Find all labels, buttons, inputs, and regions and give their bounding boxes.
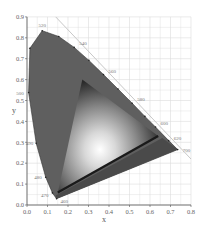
x-tick-label: 0.5	[125, 208, 133, 215]
wavelength-label-520: 520	[38, 23, 46, 28]
wavelength-label-540: 540	[79, 41, 87, 46]
y-tick-label: 0.5	[16, 97, 24, 104]
wavelength-label-700: 700	[183, 148, 191, 153]
wavelength-label-560: 560	[108, 69, 116, 74]
wavelength-label-600: 600	[161, 121, 169, 126]
cie-chromaticity-chart: 0.00.10.20.30.40.50.60.70.80.00.10.20.30…	[0, 0, 206, 229]
wavelength-label-620: 620	[174, 136, 182, 141]
y-tick-label: 0.4	[16, 118, 25, 125]
y-tick-label: 0.6	[16, 76, 25, 83]
x-tick-label: 0.1	[43, 208, 51, 215]
y-tick-label: 0.8	[16, 34, 24, 41]
x-tick-label: 0.0	[23, 208, 31, 215]
plot-area	[28, 17, 191, 200]
y-tick-label: 0.1	[16, 180, 24, 187]
x-tick-label: 0.7	[166, 208, 175, 215]
y-tick-label: 0.0	[16, 201, 24, 208]
wavelength-label-580: 580	[137, 97, 145, 102]
wavelength-label-480: 480	[34, 175, 42, 180]
wavelength-label-490: 490	[26, 141, 34, 146]
x-tick-label: 0.8	[187, 208, 195, 215]
x-tick-label: 0.4	[105, 208, 114, 215]
y-tick-label: 0.7	[16, 55, 25, 62]
wavelength-label-460: 460	[61, 199, 69, 204]
x-tick-label: 0.3	[84, 208, 92, 215]
x-axis-label: x	[102, 215, 106, 224]
wavelength-label-470: 470	[41, 193, 49, 198]
x-tick-label: 0.2	[64, 208, 72, 215]
wavelength-label-500: 500	[16, 91, 24, 96]
y-axis-label: y	[12, 106, 16, 115]
x-tick-label: 0.6	[146, 208, 155, 215]
y-tick-label: 0.2	[16, 159, 24, 166]
y-tick-label: 0.3	[16, 139, 24, 146]
y-tick-label: 0.9	[16, 13, 24, 20]
